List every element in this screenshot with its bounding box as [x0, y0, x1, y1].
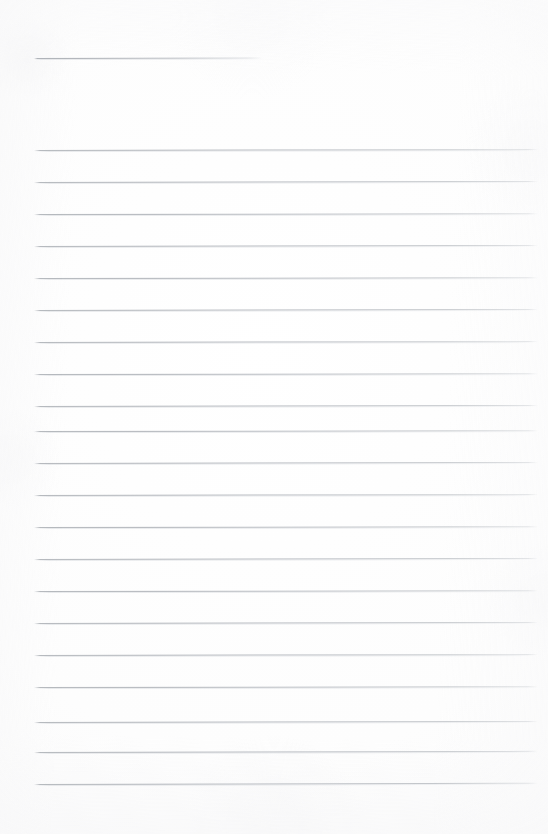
rule-15 — [34, 590, 538, 592]
rule-18 — [34, 686, 538, 688]
rule-3 — [34, 213, 538, 215]
rule-13 — [34, 526, 538, 528]
rule-7 — [34, 341, 538, 343]
rule-5 — [34, 277, 538, 279]
rule-2 — [34, 181, 538, 183]
ruled-lines-layer — [0, 0, 548, 834]
rule-20 — [34, 751, 538, 753]
rule-4 — [34, 245, 538, 247]
rule-8 — [34, 373, 538, 375]
rule-17 — [34, 654, 538, 656]
rule-19 — [34, 721, 538, 723]
rule-16 — [34, 622, 538, 624]
rule-6 — [34, 309, 538, 311]
rule-14 — [34, 558, 538, 560]
rule-11 — [34, 462, 538, 464]
rule-21 — [34, 783, 538, 785]
rule-10 — [34, 430, 538, 432]
scanned-page — [0, 0, 548, 834]
rule-9 — [34, 405, 538, 407]
rule-12 — [34, 494, 538, 496]
rule-1 — [34, 149, 538, 151]
